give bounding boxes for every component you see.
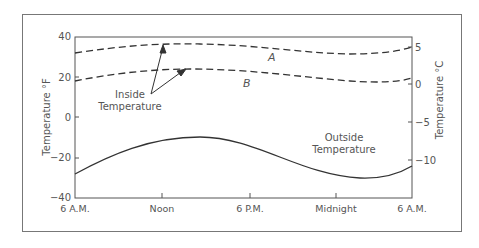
svg-text:5: 5 — [415, 42, 421, 53]
outside-label-1: Outside — [325, 132, 364, 143]
svg-text:0: 0 — [415, 79, 421, 90]
left-tick-labels: 40 20 0 −20 −40 — [50, 31, 71, 203]
svg-text:−40: −40 — [50, 192, 71, 203]
x-tick-labels: 6 A.M. Noon 6 P.M. Midnight 6 A.M. — [60, 203, 427, 214]
svg-text:6 A.M.: 6 A.M. — [397, 203, 427, 214]
svg-text:Noon: Noon — [150, 203, 175, 214]
label-a: A — [267, 51, 276, 64]
bottom-ticks — [162, 193, 336, 198]
label-b: B — [243, 77, 251, 90]
right-ticks — [408, 47, 412, 160]
svg-text:−10: −10 — [415, 155, 436, 166]
svg-text:6 A.M.: 6 A.M. — [60, 203, 90, 214]
right-tick-labels: 5 0 −5 −10 — [415, 42, 436, 166]
inside-label-2: Temperature — [97, 101, 161, 112]
plot-area — [75, 37, 412, 198]
left-ticks — [75, 77, 79, 158]
svg-text:Midnight: Midnight — [315, 203, 357, 214]
svg-text:−5: −5 — [415, 117, 430, 128]
svg-text:20: 20 — [58, 72, 71, 83]
y-axis-title-left: Temperature °F — [41, 78, 52, 157]
chart: 40 20 0 −20 −40 5 0 −5 −10 6 A.M. Noon 6… — [0, 0, 479, 248]
y-axis-title-right: Temperature °C — [434, 61, 445, 141]
curve-a — [75, 44, 412, 54]
inside-label-1: Inside — [115, 89, 145, 100]
outside-label-2: Temperature — [311, 144, 375, 155]
svg-text:0: 0 — [65, 112, 71, 123]
svg-text:40: 40 — [58, 31, 71, 42]
svg-text:6 P.M.: 6 P.M. — [236, 203, 264, 214]
svg-text:−20: −20 — [50, 152, 71, 163]
